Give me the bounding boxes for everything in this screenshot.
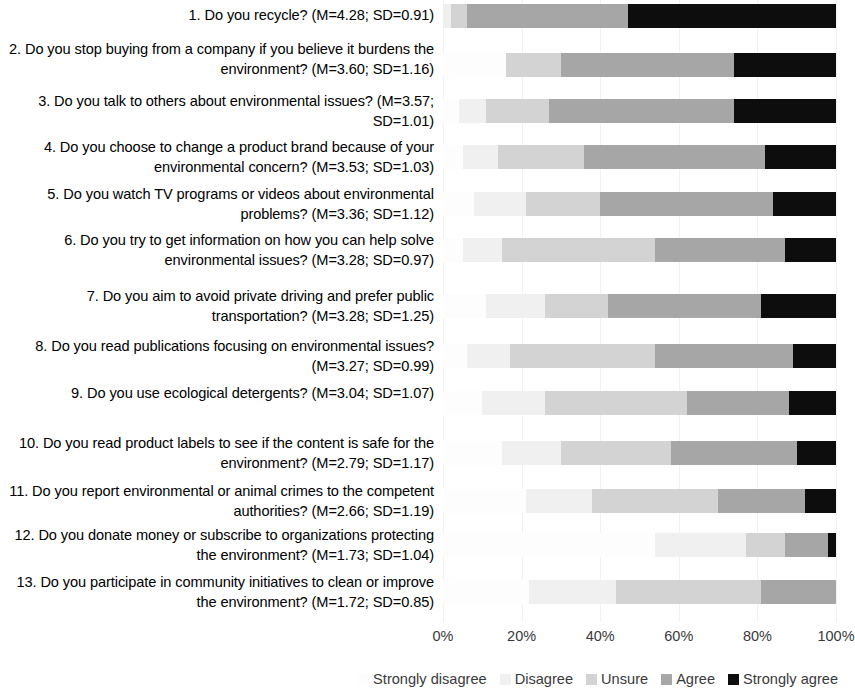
segment-agree[interactable] bbox=[655, 238, 785, 262]
segment-strongly-agree[interactable] bbox=[628, 4, 836, 28]
segment-agree[interactable] bbox=[761, 580, 836, 604]
segment-unsure[interactable] bbox=[506, 53, 561, 77]
segment-unsure[interactable] bbox=[510, 344, 655, 368]
legend-swatch-icon bbox=[358, 674, 369, 685]
legend-label: Strongly agree bbox=[743, 670, 838, 688]
segment-strongly-agree[interactable] bbox=[761, 294, 836, 318]
segment-unsure[interactable] bbox=[451, 4, 467, 28]
row-label-q6: 6. Do you try to get information on how … bbox=[4, 231, 434, 270]
segment-disagree[interactable] bbox=[443, 4, 451, 28]
stacked-bar-q6[interactable] bbox=[443, 238, 836, 262]
segment-strongly-disagree[interactable] bbox=[443, 238, 463, 262]
segment-disagree[interactable] bbox=[463, 145, 498, 169]
legend-swatch-icon bbox=[661, 674, 672, 685]
segment-agree[interactable] bbox=[600, 192, 773, 216]
segment-unsure[interactable] bbox=[746, 533, 785, 557]
segment-unsure[interactable] bbox=[561, 441, 671, 465]
x-tick-label: 40% bbox=[586, 626, 615, 646]
segment-disagree[interactable] bbox=[467, 344, 510, 368]
segment-agree[interactable] bbox=[655, 344, 793, 368]
stacked-bar-q13[interactable] bbox=[443, 580, 836, 604]
segment-strongly-agree[interactable] bbox=[797, 441, 836, 465]
segment-agree[interactable] bbox=[549, 99, 734, 123]
segment-unsure[interactable] bbox=[502, 238, 655, 262]
stacked-bar-q2[interactable] bbox=[443, 53, 836, 77]
segment-strongly-agree[interactable] bbox=[773, 192, 836, 216]
segment-disagree[interactable] bbox=[463, 238, 502, 262]
stacked-bar-q10[interactable] bbox=[443, 441, 836, 465]
stacked-bar-q12[interactable] bbox=[443, 533, 836, 557]
stacked-bar-q5[interactable] bbox=[443, 192, 836, 216]
stacked-bar-q9[interactable] bbox=[443, 391, 836, 415]
segment-unsure[interactable] bbox=[592, 489, 718, 513]
stacked-bar-q3[interactable] bbox=[443, 99, 836, 123]
legend-item-agree[interactable]: Agree bbox=[661, 670, 715, 688]
legend-item-unsure[interactable]: Unsure bbox=[586, 670, 648, 688]
segment-unsure[interactable] bbox=[486, 99, 549, 123]
segment-disagree[interactable] bbox=[502, 441, 561, 465]
legend-item-disagree[interactable]: Disagree bbox=[500, 670, 573, 688]
segment-unsure[interactable] bbox=[498, 145, 584, 169]
segment-agree[interactable] bbox=[718, 489, 804, 513]
segment-strongly-disagree[interactable] bbox=[443, 145, 463, 169]
segment-disagree[interactable] bbox=[655, 533, 745, 557]
row-label-q5: 5. Do you watch TV programs or videos ab… bbox=[4, 185, 434, 224]
segment-agree[interactable] bbox=[608, 294, 761, 318]
segment-strongly-disagree[interactable] bbox=[443, 99, 459, 123]
row-label-q11: 11. Do you report environmental or anima… bbox=[4, 482, 434, 521]
segment-unsure[interactable] bbox=[545, 294, 608, 318]
segment-agree[interactable] bbox=[671, 441, 797, 465]
segment-strongly-disagree[interactable] bbox=[443, 192, 474, 216]
segment-strongly-disagree[interactable] bbox=[443, 533, 655, 557]
segment-strongly-agree[interactable] bbox=[734, 53, 836, 77]
segment-agree[interactable] bbox=[785, 533, 828, 557]
row-label-q9: 9. Do you use ecological detergents? (M=… bbox=[4, 384, 434, 404]
segment-disagree[interactable] bbox=[482, 391, 545, 415]
stacked-bar-q4[interactable] bbox=[443, 145, 836, 169]
segment-strongly-disagree[interactable] bbox=[443, 344, 467, 368]
segment-strongly-disagree[interactable] bbox=[443, 294, 486, 318]
legend-item-strongly-agree[interactable]: Strongly agree bbox=[728, 670, 838, 688]
x-tick-label: 100% bbox=[817, 626, 854, 646]
row-label-q10: 10. Do you read product labels to see if… bbox=[4, 434, 434, 473]
segment-strongly-agree[interactable] bbox=[785, 238, 836, 262]
stacked-bar-q8[interactable] bbox=[443, 344, 836, 368]
x-tick-label: 80% bbox=[743, 626, 772, 646]
segment-agree[interactable] bbox=[584, 145, 765, 169]
segment-agree[interactable] bbox=[561, 53, 734, 77]
segment-unsure[interactable] bbox=[616, 580, 761, 604]
x-axis: 0%20%40%60%80%100% bbox=[443, 626, 836, 650]
segment-disagree[interactable] bbox=[486, 294, 545, 318]
segment-disagree[interactable] bbox=[474, 192, 525, 216]
legend-swatch-icon bbox=[500, 674, 511, 685]
row-label-q8: 8. Do you read publications focusing on … bbox=[4, 337, 434, 376]
segment-strongly-agree[interactable] bbox=[789, 391, 836, 415]
x-tick-label: 0% bbox=[433, 626, 454, 646]
segment-strongly-agree[interactable] bbox=[734, 99, 836, 123]
stacked-bar-q7[interactable] bbox=[443, 294, 836, 318]
legend-swatch-icon bbox=[586, 674, 597, 685]
segment-unsure[interactable] bbox=[526, 192, 601, 216]
segment-unsure[interactable] bbox=[545, 391, 686, 415]
segment-disagree[interactable] bbox=[459, 99, 487, 123]
segment-strongly-disagree[interactable] bbox=[443, 53, 506, 77]
row-label-q13: 13. Do you participate in community init… bbox=[4, 573, 434, 612]
segment-strongly-disagree[interactable] bbox=[443, 391, 482, 415]
legend-label: Strongly disagree bbox=[373, 670, 487, 688]
segment-strongly-agree[interactable] bbox=[765, 145, 836, 169]
segment-agree[interactable] bbox=[687, 391, 789, 415]
segment-strongly-disagree[interactable] bbox=[443, 580, 529, 604]
segment-disagree[interactable] bbox=[529, 580, 615, 604]
segment-strongly-disagree[interactable] bbox=[443, 489, 526, 513]
segment-strongly-agree[interactable] bbox=[805, 489, 836, 513]
legend-item-strongly-disagree[interactable]: Strongly disagree bbox=[358, 670, 487, 688]
legend-label: Unsure bbox=[601, 670, 648, 688]
stacked-bar-q1[interactable] bbox=[443, 4, 836, 28]
segment-disagree[interactable] bbox=[526, 489, 593, 513]
x-tick-label: 60% bbox=[664, 626, 693, 646]
segment-strongly-agree[interactable] bbox=[828, 533, 836, 557]
segment-strongly-agree[interactable] bbox=[793, 344, 836, 368]
segment-strongly-disagree[interactable] bbox=[443, 441, 502, 465]
stacked-bar-q11[interactable] bbox=[443, 489, 836, 513]
segment-agree[interactable] bbox=[467, 4, 628, 28]
